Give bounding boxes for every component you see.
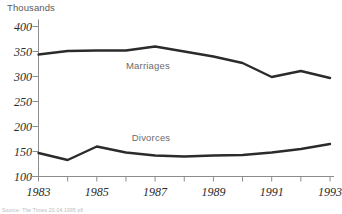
series-line-marriages: [39, 47, 331, 79]
source-note: Source: The Times 20.04.1995 p6: [2, 207, 83, 214]
series-line-divorces: [39, 144, 331, 160]
data-series: [39, 47, 331, 161]
